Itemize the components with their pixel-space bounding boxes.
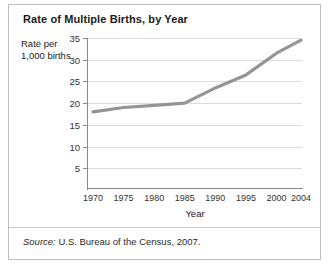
line-series: [87, 38, 303, 190]
y-tick-label-15: 15: [69, 119, 80, 130]
source-label: Source:: [23, 236, 56, 247]
footer-divider: [9, 227, 320, 228]
x-tick-label-2004: 2004: [291, 193, 311, 203]
y-tick-label-10: 10: [69, 141, 80, 152]
y-tick-label-20: 20: [69, 98, 80, 109]
y-tick-label-5: 5: [75, 163, 80, 174]
page-title: Rate of Multiple Births, by Year: [23, 13, 188, 25]
source-note: Source: U.S. Bureau of the Census, 2007.: [23, 236, 200, 247]
source-value: U.S. Bureau of the Census, 2007.: [56, 236, 201, 247]
y-tick-label-35: 35: [69, 33, 80, 44]
x-axis-title: Year: [87, 208, 303, 219]
x-tick-label-1985: 1985: [175, 193, 195, 203]
x-tick-label-2000: 2000: [267, 193, 287, 203]
x-tick-label-1995: 1995: [236, 193, 256, 203]
x-tick-label-1990: 1990: [205, 193, 225, 203]
plot-area: 3530252015105 19701975198019851990199520…: [87, 38, 302, 189]
x-tick-label-1980: 1980: [144, 193, 164, 203]
x-tick-label-1970: 1970: [83, 193, 103, 203]
x-tick-label-1975: 1975: [114, 193, 134, 203]
y-tick-label-30: 30: [69, 54, 80, 65]
y-tick-label-25: 25: [69, 76, 80, 87]
chart-card: Rate of Multiple Births, by Year Rate pe…: [8, 4, 321, 260]
